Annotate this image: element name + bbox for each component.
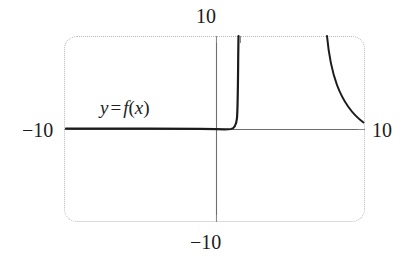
annotation-equals: = <box>108 97 123 118</box>
viewport-frame <box>64 36 365 222</box>
annotation-x: x <box>135 97 143 118</box>
graph-figure: 10 −10 −10 10 y=f(x) <box>0 0 412 263</box>
function-annotation: y=f(x) <box>100 97 150 119</box>
axis-label-right: 10 <box>372 120 392 140</box>
axis-label-top: 10 <box>196 6 216 26</box>
annotation-close-paren: ) <box>143 97 149 118</box>
axis-label-left: −10 <box>22 120 53 140</box>
axis-label-bottom: −10 <box>190 232 221 252</box>
